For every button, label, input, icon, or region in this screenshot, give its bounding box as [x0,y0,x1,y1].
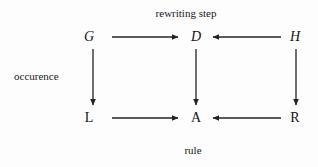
node-l: L [79,111,99,125]
node-d: D [186,30,206,44]
caption-occurence: occurence [14,71,59,82]
arrow-layer [0,0,318,167]
node-h: H [285,30,305,44]
caption-rule: rule [184,145,201,156]
caption-rewriting-step: rewriting step [156,8,217,19]
node-a: A [186,111,206,125]
node-r: R [285,111,305,125]
node-g: G [79,30,99,44]
diagram-canvas: G D H L A R rewriting step occurence rul… [0,0,318,167]
